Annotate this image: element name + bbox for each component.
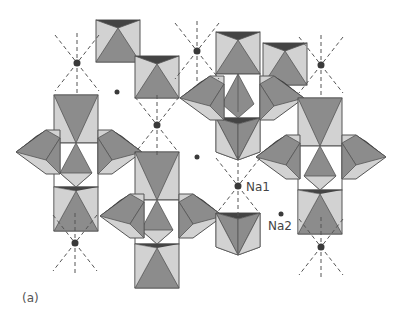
- na2-site: [195, 155, 200, 160]
- wing-right-inner: [256, 135, 300, 179]
- na1-site: [55, 33, 99, 93]
- octahedron-top-center-1: [216, 32, 260, 74]
- octahedron-top-left-1: [96, 20, 140, 62]
- na2-site-labeled: [279, 212, 284, 217]
- column-right: [298, 98, 342, 234]
- na1-label: Na1: [246, 181, 270, 193]
- octahedron-top-left-2: [135, 56, 179, 98]
- wing-right-outer: [342, 135, 386, 179]
- na2-site: [115, 90, 120, 95]
- panel-label: (a): [22, 292, 39, 304]
- wing-left-outer: [16, 130, 60, 174]
- column-left: [54, 95, 98, 231]
- crystal-structure-diagram: [0, 0, 396, 314]
- na2-label: Na2: [268, 220, 292, 232]
- wing-center-left: [100, 194, 144, 238]
- na1-site: [135, 95, 179, 155]
- octahedron-lower-middle: [216, 213, 260, 255]
- na1-site: [175, 21, 219, 81]
- wing-upper-center-left: [180, 76, 224, 120]
